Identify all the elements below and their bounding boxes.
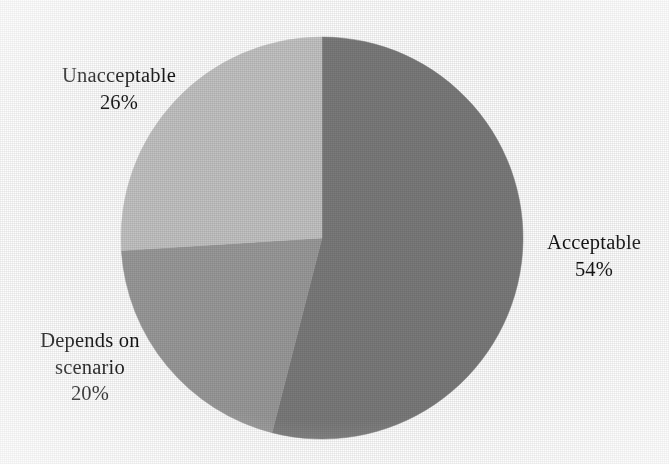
- pie-label-acceptable: Acceptable 54%: [522, 229, 666, 282]
- pie-label-unacceptable-name: Unacceptable: [24, 62, 214, 89]
- pie-label-acceptable-value: 54%: [522, 256, 666, 283]
- pie-label-acceptable-name: Acceptable: [522, 229, 666, 256]
- pie-label-depends-value: 20%: [10, 380, 170, 407]
- pie-chart-figure: Unacceptable 26% Acceptable 54% Depends …: [0, 0, 669, 464]
- pie-label-unacceptable: Unacceptable 26%: [24, 62, 214, 115]
- pie-label-depends-name-line2: scenario: [10, 354, 170, 381]
- pie-label-unacceptable-value: 26%: [24, 89, 214, 116]
- pie-label-depends-name-line1: Depends on: [10, 327, 170, 354]
- pie-label-depends-on-scenario: Depends on scenario 20%: [10, 327, 170, 407]
